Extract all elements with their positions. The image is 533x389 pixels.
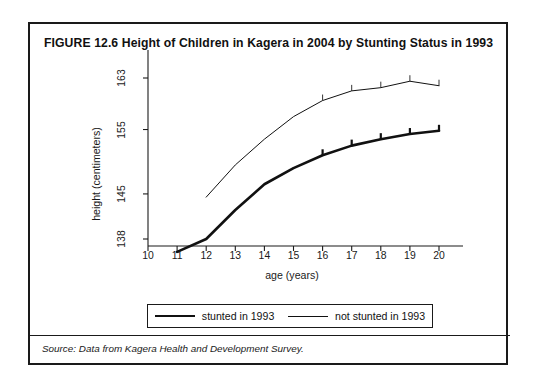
x-tick-label-16: 16 bbox=[317, 250, 329, 261]
y-axis-title: height (centimeters) bbox=[90, 127, 102, 221]
y-tick-label-163: 163 bbox=[116, 69, 127, 86]
x-tick-label-18: 18 bbox=[375, 250, 387, 261]
y-tick-label-155: 155 bbox=[116, 121, 127, 138]
legend-label-not-stunted: not stunted in 1993 bbox=[335, 310, 425, 322]
x-tick-label-15: 15 bbox=[288, 250, 300, 261]
x-tick-label-11: 11 bbox=[172, 250, 183, 261]
figure-frame: FIGURE 12.6 Height of Children in Kagera… bbox=[28, 22, 508, 365]
legend-label-stunted: stunted in 1993 bbox=[202, 310, 274, 322]
x-tick-label-20: 20 bbox=[433, 250, 445, 261]
source-note: Source: Data from Kagera Health and Deve… bbox=[42, 343, 304, 354]
chart-legend: stunted in 1993 not stunted in 1993 bbox=[147, 304, 433, 328]
x-tick-label-17: 17 bbox=[346, 250, 358, 261]
source-divider bbox=[30, 335, 510, 336]
x-tick-label-19: 19 bbox=[404, 250, 416, 261]
legend-item-not-stunted: not stunted in 1993 bbox=[288, 310, 425, 322]
y-tick-label-138: 138 bbox=[116, 230, 127, 247]
series-line-stunted bbox=[177, 131, 439, 252]
legend-item-stunted: stunted in 1993 bbox=[155, 310, 274, 322]
legend-line-thin-icon bbox=[288, 316, 328, 317]
x-axis-title: age (years) bbox=[265, 269, 319, 281]
x-tick-label-10: 10 bbox=[142, 250, 154, 261]
legend-line-thick-icon bbox=[155, 315, 195, 317]
x-tick-label-14: 14 bbox=[259, 250, 271, 261]
x-tick-label-12: 12 bbox=[200, 250, 212, 261]
x-tick-label-13: 13 bbox=[230, 250, 242, 261]
y-tick-label-145: 145 bbox=[116, 185, 127, 202]
